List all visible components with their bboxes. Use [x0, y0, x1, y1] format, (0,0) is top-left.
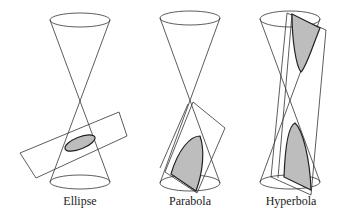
- ellipse-panel: [20, 13, 127, 189]
- ellipse-cone: [50, 13, 110, 189]
- ellipse-label: Ellipse: [30, 194, 130, 209]
- parabola-panel: [160, 11, 225, 193]
- parabola-label: Parabola: [140, 194, 240, 209]
- hyperbola-lower-branch: [284, 123, 311, 190]
- hyperbola-label: Hyperbola: [241, 194, 341, 209]
- ellipse-section: [63, 131, 97, 154]
- hyperbola-panel: [260, 11, 326, 195]
- conic-sections-diagram: [0, 0, 348, 219]
